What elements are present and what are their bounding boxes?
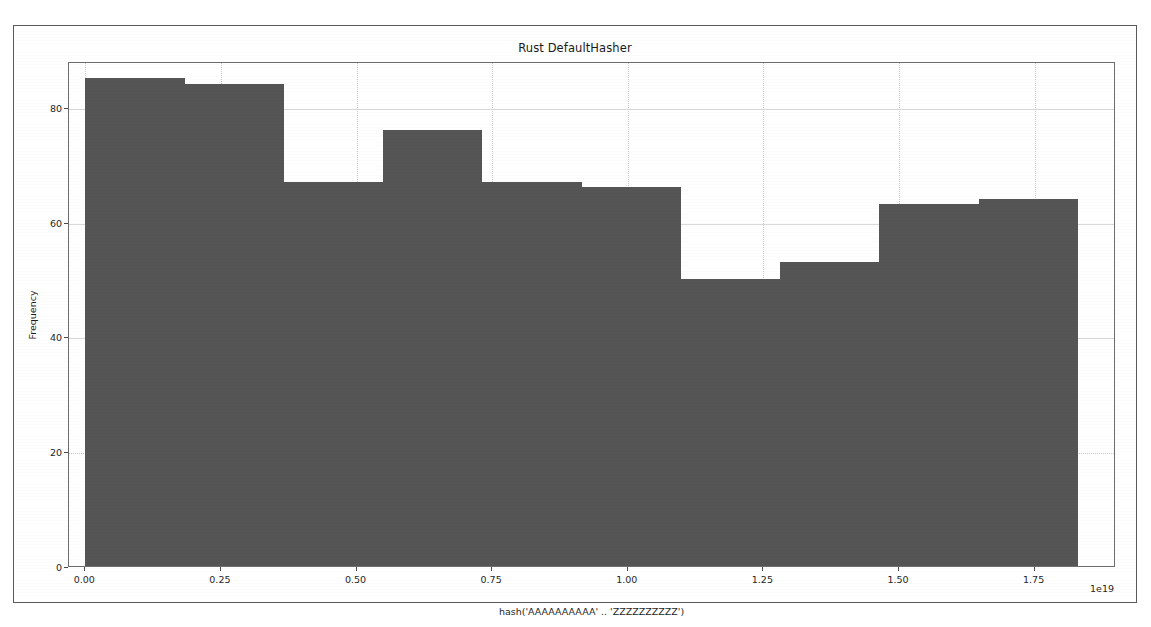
histogram-bar (582, 187, 681, 566)
x-tick-label: 1.75 (1023, 574, 1044, 585)
y-tick-label: 60 (34, 217, 62, 228)
x-tick-mark (84, 567, 85, 571)
histogram-bar (284, 182, 383, 566)
histogram-bar (681, 279, 780, 566)
x-tick-label: 0.50 (345, 574, 366, 585)
y-tick-mark (64, 567, 68, 568)
histogram-bar (482, 182, 581, 566)
y-axis-label: Frequency (27, 290, 38, 339)
chart-title: Rust DefaultHasher (14, 41, 1136, 55)
y-tick-label: 0 (34, 562, 62, 573)
x-tick-mark (762, 567, 763, 571)
x-tick-mark (356, 567, 357, 571)
x-tick-mark (898, 567, 899, 571)
x-axis-label: hash('AAAAAAAAAA' .. 'ZZZZZZZZZZ') (68, 606, 1115, 617)
x-tick-label: 0.00 (74, 574, 95, 585)
screenshot-page: Rust DefaultHasher 0.000.250.500.751.001… (0, 0, 1151, 627)
x-tick-mark (491, 567, 492, 571)
x-axis-exponent-label: 1e19 (1090, 583, 1114, 594)
histogram-bar (185, 84, 284, 566)
x-tick-label: 0.25 (209, 574, 230, 585)
histogram-bar (383, 130, 482, 566)
x-tick-label: 1.00 (616, 574, 637, 585)
y-tick-label: 20 (34, 447, 62, 458)
y-tick-mark (64, 337, 68, 338)
y-tick-label: 40 (34, 332, 62, 343)
x-tick-mark (220, 567, 221, 571)
figure-canvas: Rust DefaultHasher 0.000.250.500.751.001… (14, 26, 1136, 602)
y-tick-mark (64, 452, 68, 453)
x-tick-label: 0.75 (481, 574, 502, 585)
x-tick-label: 1.50 (887, 574, 908, 585)
histogram-bar (879, 204, 978, 566)
histogram-bar (979, 199, 1078, 566)
histogram-bar (85, 78, 184, 566)
y-tick-label: 80 (34, 102, 62, 113)
y-tick-mark (64, 223, 68, 224)
x-tick-label: 1.25 (752, 574, 773, 585)
histogram-bar (780, 262, 879, 566)
x-tick-mark (627, 567, 628, 571)
figure-frame: Rust DefaultHasher 0.000.250.500.751.001… (13, 25, 1137, 603)
y-tick-mark (64, 108, 68, 109)
plot-area (68, 62, 1115, 567)
x-tick-mark (1034, 567, 1035, 571)
